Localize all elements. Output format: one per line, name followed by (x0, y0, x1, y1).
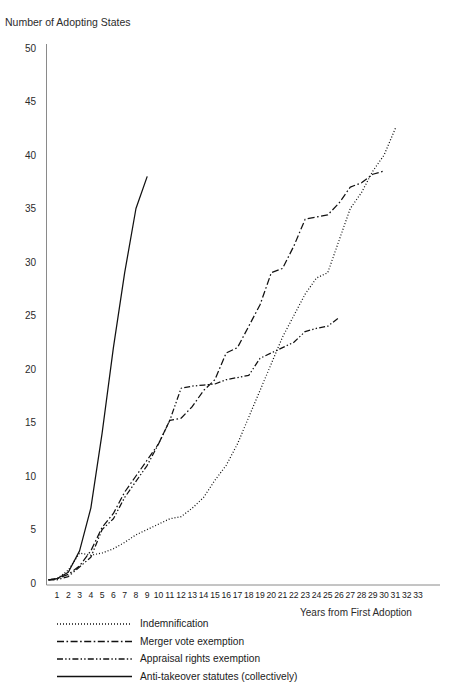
y-tick-label: 0 (30, 578, 36, 589)
x-tick-label: 14 (199, 590, 209, 600)
x-tick-label: 33 (413, 590, 423, 600)
y-tick-label: 50 (25, 43, 37, 54)
x-tick-label: 30 (379, 590, 389, 600)
series-line (49, 176, 148, 579)
x-tick-label: 6 (111, 590, 116, 600)
line-chart-plot: 05101520253035404550 1234567891011121314… (0, 0, 450, 685)
y-tick-label: 20 (25, 364, 37, 375)
y-axis-tick-labels: 05101520253035404550 (25, 43, 37, 589)
legend-label: Anti-takeover statutes (collectively) (140, 671, 297, 682)
x-tick-label: 25 (323, 590, 333, 600)
y-tick-label: 30 (25, 257, 37, 268)
x-tick-label: 15 (210, 590, 220, 600)
x-tick-label: 18 (244, 590, 254, 600)
x-tick-label: 23 (300, 590, 310, 600)
y-tick-label: 45 (25, 96, 37, 107)
y-tick-label: 10 (25, 471, 37, 482)
y-tick-label: 40 (25, 150, 37, 161)
y-tick-label: 25 (25, 310, 37, 321)
series-line (49, 318, 340, 580)
x-tick-label: 21 (278, 590, 288, 600)
legend-label: Indemnification (140, 618, 209, 629)
x-tick-label: 22 (289, 590, 299, 600)
x-axis-tick-labels: 1234567891011121314151617181920212223242… (55, 590, 423, 600)
x-tick-label: 3 (77, 590, 82, 600)
x-tick-label: 29 (368, 590, 378, 600)
x-tick-label: 13 (188, 590, 198, 600)
x-tick-label: 11 (165, 590, 174, 600)
x-tick-label: 1 (55, 590, 60, 600)
chart-legend: IndemnificationMerger vote exemptionAppr… (57, 618, 297, 682)
x-tick-label: 4 (88, 590, 93, 600)
chart-axes (47, 44, 441, 585)
x-tick-label: 9 (145, 590, 150, 600)
x-tick-label: 2 (66, 590, 71, 600)
x-tick-label: 19 (255, 590, 265, 600)
legend-label: Merger vote exemption (140, 636, 244, 647)
legend-label: Appraisal rights exemption (140, 653, 260, 664)
chart-figure: Number of Adopting States Years from Fir… (0, 0, 450, 685)
x-tick-label: 16 (221, 590, 231, 600)
x-tick-label: 17 (233, 590, 243, 600)
x-tick-label: 27 (345, 590, 355, 600)
x-tick-label: 24 (312, 590, 322, 600)
x-tick-label: 28 (357, 590, 367, 600)
data-series-group (49, 128, 396, 580)
x-tick-label: 10 (154, 590, 164, 600)
y-tick-label: 35 (25, 203, 37, 214)
series-line (49, 171, 385, 580)
x-tick-label: 26 (334, 590, 344, 600)
x-tick-label: 32 (402, 590, 412, 600)
x-tick-label: 12 (176, 590, 186, 600)
y-tick-label: 5 (30, 524, 36, 535)
y-tick-label: 15 (25, 417, 37, 428)
x-tick-label: 31 (391, 590, 401, 600)
x-tick-label: 20 (267, 590, 277, 600)
x-tick-label: 7 (122, 590, 127, 600)
x-tick-label: 8 (134, 590, 139, 600)
x-tick-label: 5 (100, 590, 105, 600)
